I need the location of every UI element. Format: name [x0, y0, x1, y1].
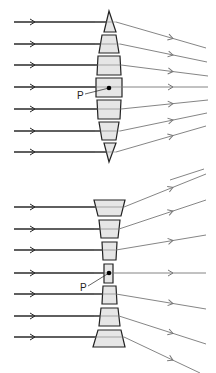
point-p-dot: [107, 271, 112, 276]
prism-segment: [94, 200, 125, 216]
prism-segment: [97, 56, 121, 75]
point-p-label-top: P: [77, 91, 84, 101]
outgoing-ray: [116, 294, 206, 309]
outgoing-ray: [116, 235, 206, 250]
prism-segment: [102, 286, 117, 304]
outgoing-ray: [120, 44, 207, 62]
point-p-label-bottom: P: [80, 283, 87, 293]
outgoing-ray: [120, 113, 207, 131]
prism-segment: [102, 242, 117, 260]
outgoing-ray: [121, 100, 208, 109]
lens-prism-diagram: P P: [0, 0, 216, 373]
outgoing-ray: [124, 337, 200, 373]
outgoing-ray-fragment: [170, 169, 204, 180]
prism-segment: [93, 330, 125, 347]
outgoing-ray: [116, 126, 206, 152]
prism-segment: [99, 308, 120, 326]
outgoing-ray: [119, 200, 206, 229]
outgoing-ray: [116, 22, 206, 48]
converging-lens-diagram: [14, 11, 208, 180]
prism-segment: [97, 100, 121, 119]
outgoing-ray: [121, 65, 208, 76]
ray-diagram-canvas: [0, 0, 216, 373]
outgoing-ray: [119, 316, 206, 344]
outgoing-ray: [124, 174, 206, 207]
point-p-dot: [107, 86, 112, 91]
diverging-lens-diagram: [14, 174, 206, 373]
